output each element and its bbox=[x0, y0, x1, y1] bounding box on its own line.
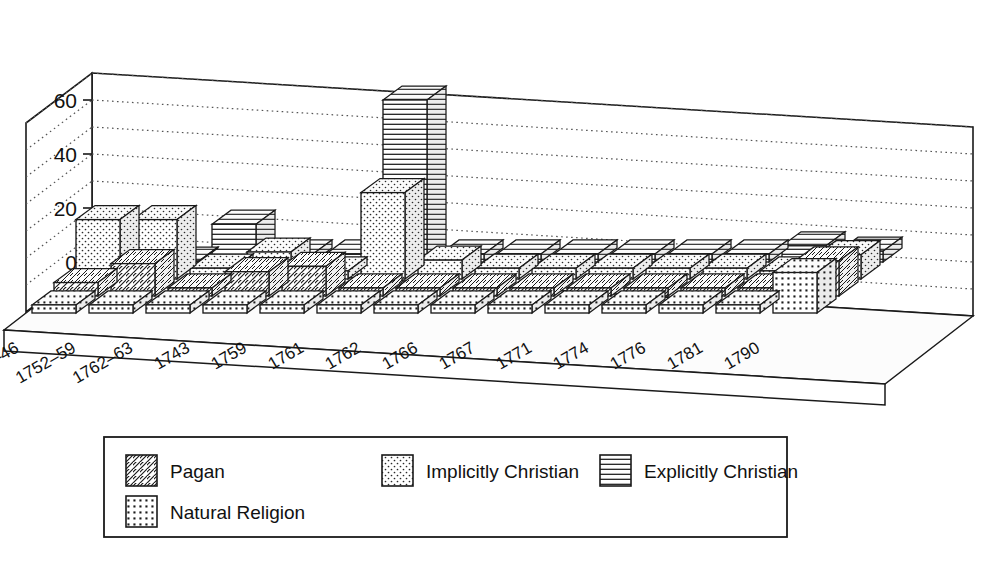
bar-front-face bbox=[602, 305, 646, 313]
bar[interactable] bbox=[111, 250, 174, 296]
legend-swatch bbox=[126, 455, 157, 486]
legend-label: Pagan bbox=[170, 461, 225, 482]
y-axis-tick-label: 60 bbox=[54, 89, 77, 112]
bar-side-face bbox=[405, 179, 424, 279]
three-d-bar-chart: 0204060 1740–461752–591762–6317431759176… bbox=[0, 0, 999, 563]
bar[interactable] bbox=[282, 252, 345, 296]
legend-swatch bbox=[600, 455, 631, 486]
bar[interactable] bbox=[773, 259, 836, 314]
bar-front-face bbox=[203, 305, 247, 313]
bar-front-face bbox=[146, 305, 190, 313]
bar-front-face bbox=[260, 305, 304, 313]
bar-front-face bbox=[361, 193, 405, 279]
chart-container: 0204060 1740–461752–591762–6317431759176… bbox=[0, 0, 999, 563]
bar-front-face bbox=[659, 305, 703, 313]
legend-swatch bbox=[382, 455, 413, 486]
y-axis-tick-label: 40 bbox=[54, 143, 77, 166]
legend-swatch bbox=[126, 496, 157, 527]
bar-front-face bbox=[374, 305, 418, 313]
bar-front-face bbox=[89, 305, 133, 313]
chart-legend: PaganImplicitly ChristianExplicitly Chri… bbox=[104, 437, 798, 537]
bar-front-face bbox=[545, 305, 589, 313]
bar-front-face bbox=[32, 305, 76, 313]
legend-label: Natural Religion bbox=[170, 502, 305, 523]
bar-front-face bbox=[431, 305, 475, 313]
y-axis-tick-label: 20 bbox=[54, 197, 77, 220]
bar-front-face bbox=[716, 305, 760, 313]
bar[interactable] bbox=[361, 179, 424, 279]
bar-front-face bbox=[488, 305, 532, 313]
bar-side-face bbox=[427, 86, 446, 262]
legend-label: Explicitly Christian bbox=[644, 461, 798, 482]
bar-front-face bbox=[317, 305, 361, 313]
legend-label: Implicitly Christian bbox=[426, 461, 579, 482]
